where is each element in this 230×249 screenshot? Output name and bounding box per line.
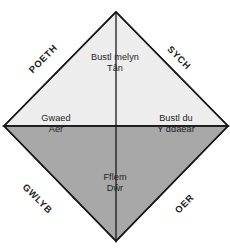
diamond-shape-svg bbox=[0, 0, 230, 249]
humours-diamond-diagram: Bustl melyn Tân Gwaed Aer Bustl du Y dda… bbox=[0, 0, 230, 249]
